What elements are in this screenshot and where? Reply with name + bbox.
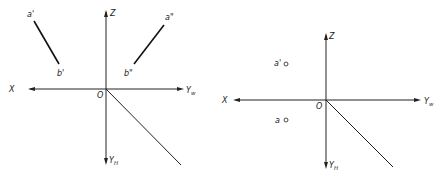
left-z-label: Z — [109, 9, 116, 18]
left-yh-label: YH — [109, 156, 118, 166]
left-b-prime-label: b' — [57, 69, 64, 78]
right-x-label: X — [221, 96, 228, 105]
right-z-label: Z — [328, 32, 335, 41]
right-origin-label: O — [316, 102, 322, 111]
right-z-arrow-icon — [324, 33, 328, 40]
left-z-arrow-icon — [104, 10, 108, 17]
right-45-line — [326, 100, 393, 167]
left-yw-sub: w — [191, 90, 196, 96]
left-segment-side — [134, 25, 164, 64]
left-yw-arrow-icon — [177, 87, 184, 91]
right-yh-arrow-icon — [324, 162, 328, 169]
right-a-prime-label: a' — [274, 59, 281, 68]
left-yh-sub: H — [114, 160, 118, 166]
right-yh-sub: H — [334, 165, 338, 171]
left-diagram: X Z O Yw YH a' b' a" b" — [8, 9, 196, 166]
right-a-label: a — [275, 116, 280, 125]
left-yh-arrow-icon — [104, 158, 108, 165]
right-diagram: X Z O Yw YH a' a — [221, 32, 434, 171]
left-a-prime-label: a' — [27, 10, 34, 19]
projection-diagrams: X Z O Yw YH a' b' a" b" X Z O Yw YH a' a — [0, 0, 443, 186]
left-45-line — [106, 89, 181, 165]
left-origin-label: O — [97, 91, 103, 100]
right-yw-label: Yw — [424, 97, 434, 107]
right-yw-arrow-icon — [414, 98, 421, 102]
left-segment-front — [34, 21, 59, 64]
left-b-dprime-label: b" — [124, 69, 133, 78]
right-point-a — [284, 118, 288, 122]
left-a-dprime-label: a" — [165, 13, 174, 22]
left-x-label: X — [8, 85, 15, 94]
right-yw-sub: w — [429, 101, 434, 107]
right-yh-label: YH — [329, 161, 338, 171]
left-yw-label: Yw — [186, 86, 196, 96]
right-point-a-prime — [284, 62, 288, 66]
left-x-arrow-icon — [28, 87, 35, 91]
right-x-arrow-icon — [233, 98, 240, 102]
